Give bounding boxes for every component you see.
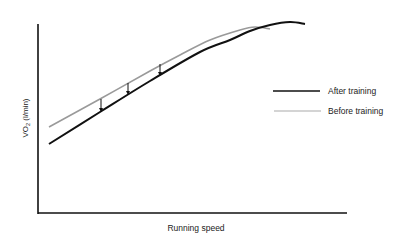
series-before-training xyxy=(49,27,270,127)
legend-label-after: After training xyxy=(328,86,376,96)
legend: After training Before training xyxy=(273,86,384,116)
legend-label-before: Before training xyxy=(328,106,384,116)
svg-text:VO2 (l/min): VO2 (l/min) xyxy=(21,98,31,137)
y-label-unit: (l/min) xyxy=(21,98,30,123)
y-axis-label: VO2 (l/min) xyxy=(21,98,31,137)
x-axis-label: Running speed xyxy=(167,223,224,233)
improvement-arrows xyxy=(99,64,162,112)
series-after-training xyxy=(49,22,305,144)
chart: After training Before training Running s… xyxy=(0,0,407,240)
y-label-main: VO xyxy=(21,126,30,138)
